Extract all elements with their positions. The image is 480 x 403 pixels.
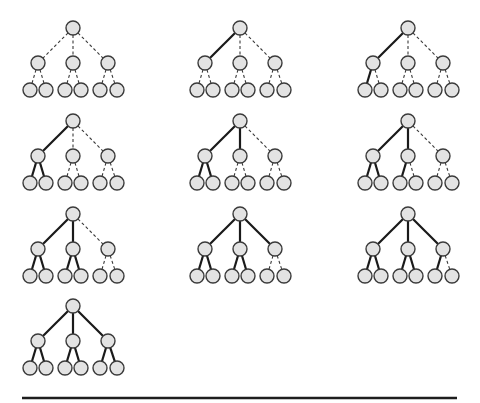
- edge-A-a1-visited: [367, 70, 371, 84]
- leaf-node-1: [23, 269, 37, 283]
- edge-B-b2-unvisited: [242, 70, 246, 84]
- tree-snapshot-5: [190, 114, 291, 190]
- edge-C-c2-unvisited: [277, 163, 282, 177]
- edge-C-c2-unvisited: [110, 256, 115, 270]
- child-node-1: [198, 56, 212, 70]
- edge-B-b1-unvisited: [402, 70, 406, 84]
- edge-root-C-visited: [245, 219, 270, 244]
- edge-A-a2-visited: [207, 163, 211, 177]
- edge-B-b1-visited: [402, 256, 406, 270]
- edge-C-c1-unvisited: [437, 163, 441, 177]
- edge-C-c2-unvisited: [445, 256, 450, 270]
- child-node-2: [66, 56, 80, 70]
- edge-C-c2-unvisited: [277, 256, 282, 270]
- edge-A-a1-visited: [367, 256, 371, 270]
- leaf-node-1: [23, 83, 37, 97]
- tree-snapshot-3: [358, 21, 459, 97]
- root-node: [233, 114, 247, 128]
- leaf-node-3: [58, 176, 72, 190]
- leaf-node-6: [110, 361, 124, 375]
- leaf-node-6: [445, 176, 459, 190]
- leaf-node-2: [39, 269, 53, 283]
- leaf-node-6: [110, 176, 124, 190]
- edge-root-C-unvisited: [245, 126, 270, 151]
- edge-root-C-visited: [78, 311, 103, 336]
- edge-C-c1-unvisited: [102, 70, 106, 84]
- edge-B-b1-unvisited: [67, 163, 71, 177]
- child-node-3: [101, 149, 115, 163]
- leaf-node-2: [374, 269, 388, 283]
- leaf-node-5: [428, 176, 442, 190]
- edge-C-c2-unvisited: [277, 70, 282, 84]
- leaf-node-4: [241, 83, 255, 97]
- edge-C-c1-unvisited: [269, 163, 273, 177]
- edge-root-C-unvisited: [413, 33, 438, 58]
- leaf-node-2: [206, 269, 220, 283]
- child-node-3: [101, 56, 115, 70]
- child-node-2: [66, 149, 80, 163]
- leaf-node-6: [277, 83, 291, 97]
- leaf-node-6: [277, 269, 291, 283]
- leaf-node-5: [428, 83, 442, 97]
- child-node-3: [436, 242, 450, 256]
- leaf-node-2: [39, 176, 53, 190]
- child-node-2: [401, 242, 415, 256]
- leaf-node-3: [225, 269, 239, 283]
- edge-B-b2-visited: [410, 256, 414, 270]
- edge-C-c1-unvisited: [437, 70, 441, 84]
- leaf-node-5: [93, 269, 107, 283]
- leaf-node-1: [23, 361, 37, 375]
- child-node-1: [31, 149, 45, 163]
- leaf-node-5: [260, 176, 274, 190]
- leaf-node-1: [358, 83, 372, 97]
- child-node-3: [436, 149, 450, 163]
- edge-B-b2-unvisited: [75, 70, 79, 84]
- leaf-node-2: [39, 361, 53, 375]
- child-node-1: [31, 242, 45, 256]
- tree-snapshot-10: [23, 299, 124, 375]
- edge-A-a2-visited: [40, 256, 44, 270]
- edge-C-c1-unvisited: [269, 70, 273, 84]
- leaf-node-1: [358, 269, 372, 283]
- edge-root-C-unvisited: [78, 33, 103, 58]
- root-node: [66, 207, 80, 221]
- edge-root-A-visited: [378, 33, 403, 58]
- edge-A-a2-unvisited: [375, 70, 379, 84]
- leaf-node-2: [206, 83, 220, 97]
- leaf-node-4: [74, 361, 88, 375]
- leaf-node-5: [93, 361, 107, 375]
- edge-A-a1-unvisited: [199, 70, 203, 84]
- leaf-node-5: [428, 269, 442, 283]
- leaf-node-3: [393, 83, 407, 97]
- child-node-1: [366, 149, 380, 163]
- leaf-node-6: [110, 83, 124, 97]
- child-node-1: [198, 242, 212, 256]
- leaf-node-5: [260, 83, 274, 97]
- child-node-2: [233, 56, 247, 70]
- edge-B-b1-visited: [67, 256, 71, 270]
- root-node: [66, 114, 80, 128]
- tree-snapshot-7: [23, 207, 124, 283]
- leaf-node-6: [277, 176, 291, 190]
- edge-B-b1-visited: [402, 163, 406, 177]
- tree-snapshot-2: [190, 21, 291, 97]
- leaf-node-3: [393, 176, 407, 190]
- edge-B-b2-unvisited: [242, 163, 246, 177]
- edge-A-a1-visited: [32, 348, 36, 362]
- edge-A-a2-visited: [40, 348, 44, 362]
- child-node-3: [101, 242, 115, 256]
- leaf-node-2: [374, 176, 388, 190]
- leaf-node-4: [74, 176, 88, 190]
- edge-B-b2-unvisited: [410, 70, 414, 84]
- edge-root-A-visited: [210, 33, 235, 58]
- leaf-node-4: [409, 83, 423, 97]
- edge-B-b2-visited: [75, 348, 79, 362]
- leaf-node-2: [374, 83, 388, 97]
- edge-root-A-visited: [43, 311, 68, 336]
- leaf-node-2: [206, 176, 220, 190]
- edge-B-b1-unvisited: [67, 70, 71, 84]
- child-node-2: [401, 149, 415, 163]
- edge-root-A-visited: [210, 126, 235, 151]
- edge-A-a1-visited: [199, 256, 203, 270]
- tree-snapshot-1: [23, 21, 124, 97]
